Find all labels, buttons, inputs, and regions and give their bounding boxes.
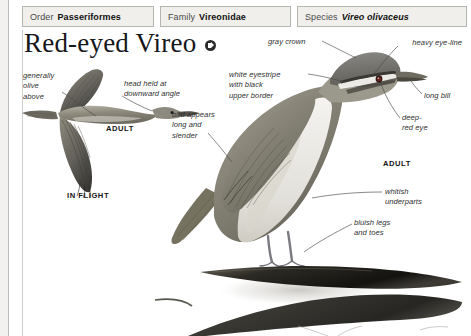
callout-bird-appears-long-and-slender: bird appears long and slender [172, 110, 238, 141]
plate-label-adult-perched: ADULT [383, 159, 411, 168]
taxonomy-key-species: Species [305, 12, 338, 22]
callout-whitish-underparts: whitish underparts [385, 187, 447, 208]
callout-long-bill: long bill [424, 91, 468, 101]
taxonomy-value-family: Vireonidae [199, 12, 246, 22]
callout-bluish-legs-and-toes: bluish legs and toes [354, 218, 414, 239]
taxonomy-cell-order: Order Passeriformes [22, 6, 154, 27]
plate-label-adult-flight: ADULT [106, 124, 134, 133]
title-row: Red-eyed Vireo [24, 30, 216, 57]
speaker-icon[interactable] [205, 40, 216, 51]
callout-heavy-eye-line: heavy eye-line [400, 38, 462, 48]
taxonomy-cell-family: Family Vireonidae [160, 6, 291, 27]
page-title: Red-eyed Vireo [24, 30, 196, 57]
plate-label-in-flight: IN FLIGHT [67, 191, 109, 200]
taxonomy-value-order: Passeriformes [58, 12, 121, 22]
callout-white-eyestripe: white eyestripe with black upper border [229, 70, 307, 101]
taxonomy-bar: Order Passeriformes Family Vireonidae Sp… [22, 6, 467, 27]
callout-head-held-at-downward-angle: head held at downward angle [124, 79, 198, 100]
taxonomy-key-order: Order [30, 12, 54, 22]
taxonomy-value-species: Vireo olivaceus [342, 12, 409, 22]
callout-gray-crown: gray crown [268, 37, 322, 47]
taxonomy-key-family: Family [168, 12, 195, 22]
taxonomy-cell-species: Species Vireo olivaceus [297, 6, 467, 27]
callout-generally-olive-above: generally olive above [23, 71, 83, 102]
callout-deep-red-eye: deep- red eye [402, 113, 448, 134]
field-guide-page: Order Passeriformes Family Vireonidae Sp… [0, 0, 471, 336]
